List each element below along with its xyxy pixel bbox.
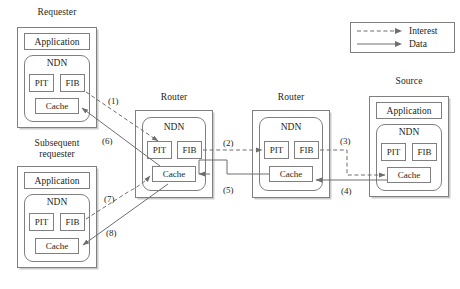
subsequent-requester-pit-box: PIT (29, 213, 54, 231)
legend-label-data: Data (409, 39, 427, 49)
flow-label-1: (1) (108, 96, 119, 106)
subsequent-requester-ndn-label: NDN (24, 197, 90, 207)
flow-label-3: (3) (340, 136, 351, 146)
requester-ndn-label: NDN (24, 58, 90, 68)
legend-item-interest: Interest (357, 26, 438, 36)
requester-cache-box: Cache (35, 98, 79, 114)
subsequent-requester-application-box: Application (24, 172, 90, 189)
flow-label-7: (7) (104, 194, 115, 204)
router-1-fib-box: FIB (177, 141, 202, 159)
router-1-ndn-label: NDN (142, 122, 206, 132)
source-cache-box: Cache (387, 167, 431, 183)
requester-fib-box: FIB (60, 74, 85, 92)
router-2-fib-box: FIB (294, 141, 319, 159)
flow-label-8: (8) (106, 228, 117, 238)
flow-label-6: (6) (102, 136, 113, 146)
source-ndn-label: NDN (376, 127, 442, 137)
source-application-box: Application (376, 102, 442, 119)
requester-pit-box: PIT (29, 74, 54, 92)
subsequent-requester-cache-box: Cache (35, 238, 79, 254)
solid-arrow-icon (357, 39, 403, 49)
router-1-pit-box: PIT (147, 141, 172, 159)
router-2-pit-box: PIT (264, 141, 289, 159)
legend-item-data: Data (357, 39, 427, 49)
flow-label-5: (5) (223, 185, 234, 195)
router-2-cache-box: Cache (269, 166, 313, 182)
flow-label-2: (2) (223, 138, 234, 148)
flow-label-4: (4) (341, 186, 352, 196)
ndn-caching-diagram: Requester Application NDN PIT FIB Cache … (0, 0, 460, 289)
router-2-ndn-label: NDN (259, 122, 323, 132)
source-fib-box: FIB (412, 143, 437, 161)
source-pit-box: PIT (381, 143, 406, 161)
subsequent-requester-title: Subsequent requester (17, 138, 97, 160)
router-2-title: Router (252, 92, 330, 103)
subsequent-requester-fib-box: FIB (60, 213, 85, 231)
legend-label-interest: Interest (409, 26, 438, 36)
requester-title: Requester (17, 7, 97, 18)
dashed-arrow-icon (357, 26, 403, 36)
router-1-cache-box: Cache (152, 166, 196, 182)
router-1-title: Router (135, 92, 213, 103)
source-title: Source (369, 76, 449, 87)
requester-application-box: Application (24, 33, 90, 50)
